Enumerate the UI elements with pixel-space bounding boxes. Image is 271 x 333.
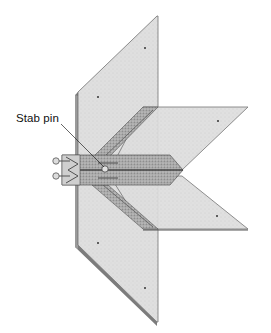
diagram-canvas: Stab pin [0,0,271,333]
horizontal-bar [62,155,183,185]
stab-pin-label: Stab pin [16,112,59,124]
stab-pin-head [102,166,108,172]
stabilizer-diagram [0,0,271,333]
